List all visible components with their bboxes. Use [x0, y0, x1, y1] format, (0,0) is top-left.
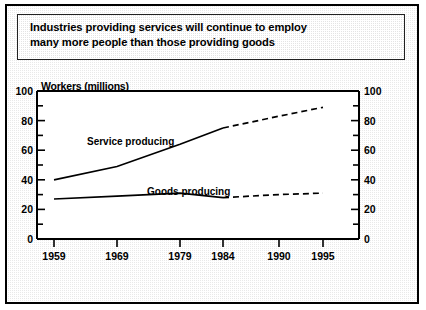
y-axis-right-labels: 100 80 60 40 20 0	[364, 85, 382, 245]
x-axis-labels: 1959 1969 1979 1984 1990 1995	[42, 250, 335, 262]
y-tick-label-right: 60	[364, 144, 376, 156]
y-tick-label: 0	[27, 233, 33, 245]
y-tick-label-right: 20	[364, 203, 376, 215]
chart-frame: Industries providing services will conti…	[5, 4, 419, 304]
series-label-service: Service producing	[87, 136, 174, 147]
x-tick-label: 1969	[105, 250, 129, 262]
y-tick-label: 80	[21, 115, 33, 127]
y-tick-label: 40	[21, 174, 33, 186]
x-axis-ticks	[54, 239, 323, 247]
x-tick-label: 1979	[168, 250, 192, 262]
plot-area-wrapper: 100 80 60 40 20 0 100 80 60 40 20 0 1959…	[7, 6, 421, 306]
y-tick-label: 20	[21, 203, 33, 215]
x-tick-label: 1984	[211, 250, 235, 262]
y-tick-label: 60	[21, 144, 33, 156]
x-tick-label: 1959	[42, 250, 66, 262]
y-axis-left-labels: 100 80 60 40 20 0	[15, 85, 33, 245]
chart-svg: 100 80 60 40 20 0 100 80 60 40 20 0 1959…	[7, 6, 421, 306]
y-tick-label-right: 100	[364, 85, 382, 97]
y-tick-label-right: 40	[364, 174, 376, 186]
y-tick-label-right: 0	[364, 233, 370, 245]
y-tick-label: 100	[15, 85, 33, 97]
x-tick-label: 1995	[311, 250, 335, 262]
series-label-goods: Goods producing	[147, 186, 230, 197]
x-tick-label: 1990	[267, 250, 291, 262]
plot-background	[37, 91, 359, 239]
y-tick-label-right: 80	[364, 115, 376, 127]
